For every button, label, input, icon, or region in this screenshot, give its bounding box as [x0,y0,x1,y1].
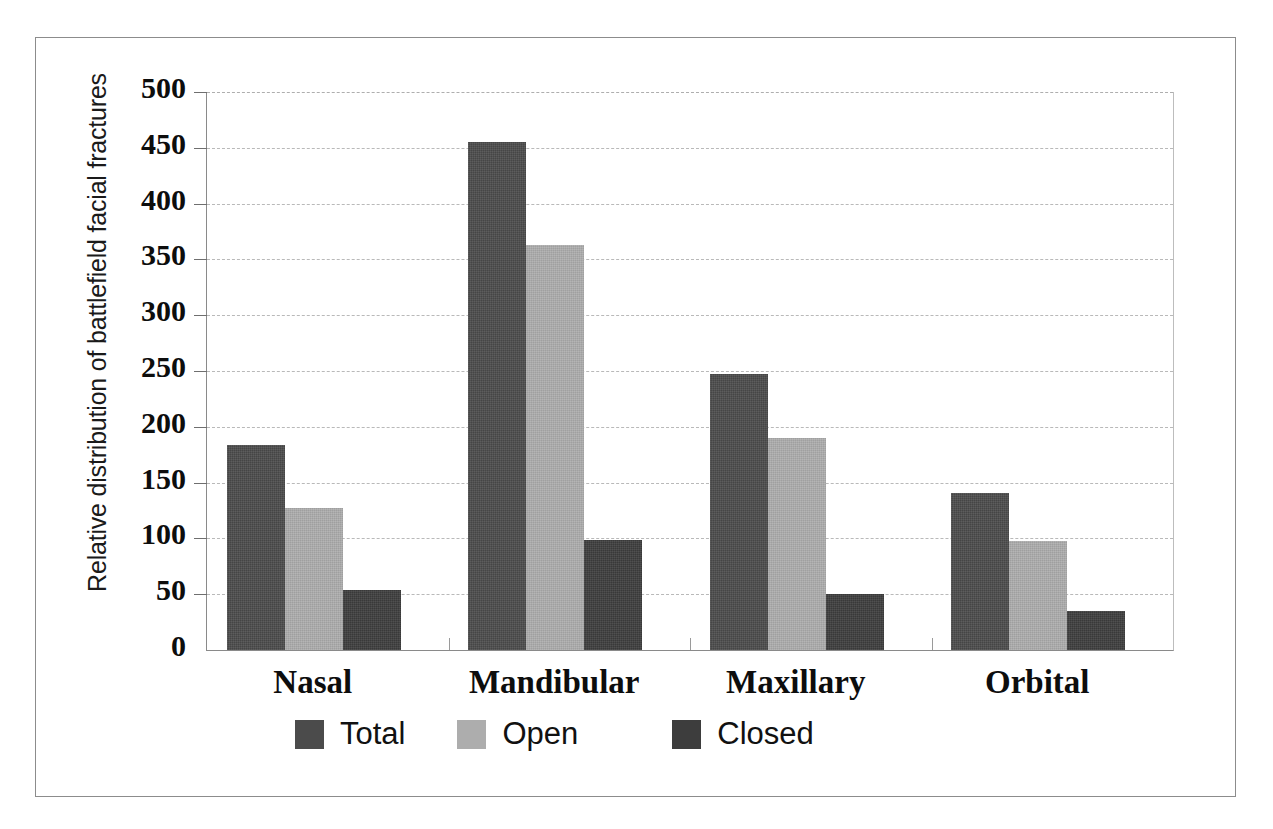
gridline-100 [207,538,1173,539]
y-tick-label-300: 300 [141,294,186,328]
legend-swatch-open [457,720,486,749]
bar-maxillary-open [768,438,826,650]
bar-mandibular-total [468,142,526,650]
tick-mark-250 [194,371,207,372]
y-tick-label-350: 350 [141,238,186,272]
tick-mark-400 [194,204,207,205]
y-tick-label-50: 50 [156,573,186,607]
legend-swatch-closed [672,720,701,749]
tick-mark-50 [194,594,207,595]
x-label-nasal: Nasal [273,664,352,701]
bar-nasal-open [285,508,343,650]
x-label-orbital: Orbital [985,664,1090,701]
gridline-500 [207,92,1173,93]
bar-orbital-closed [1067,611,1125,650]
bar-maxillary-total [710,374,768,650]
y-tick-label-400: 400 [141,183,186,217]
bar-maxillary-closed [826,594,884,650]
gridline-300 [207,315,1173,316]
y-tick-label-250: 250 [141,350,186,384]
tick-mark-300 [194,315,207,316]
chart-legend: TotalOpenClosed [295,716,814,752]
bar-nasal-closed [343,590,401,650]
legend-label-open: Open [502,716,578,752]
group-separator-2 [932,638,933,650]
tick-mark-200 [194,427,207,428]
legend-swatch-total [295,720,324,749]
tick-mark-350 [194,259,207,260]
legend-label-closed: Closed [717,716,814,752]
x-label-mandibular: Mandibular [469,664,640,701]
y-tick-label-100: 100 [141,517,186,551]
bar-orbital-total [951,493,1009,650]
legend-entry-total: Total [295,716,405,752]
y-axis-title: Relative distribution of battlefield fac… [83,33,112,633]
x-label-maxillary: Maxillary [726,664,865,701]
tick-mark-450 [194,148,207,149]
legend-entry-closed: Closed [672,716,814,752]
bar-nasal-total [227,445,285,650]
gridline-250 [207,371,1173,372]
legend-entry-open: Open [457,716,578,752]
gridline-400 [207,204,1173,205]
y-tick-label-500: 500 [141,71,186,105]
figure-root: Relative distribution of battlefield fac… [0,0,1273,829]
y-tick-label-150: 150 [141,462,186,496]
gridline-200 [207,427,1173,428]
group-separator-1 [690,638,691,650]
bar-mandibular-open [526,245,584,650]
y-tick-label-450: 450 [141,127,186,161]
tick-mark-100 [194,538,207,539]
tick-mark-500 [194,92,207,93]
tick-mark-150 [194,483,207,484]
plot-area [206,92,1174,651]
group-separator-0 [449,638,450,650]
gridline-450 [207,148,1173,149]
y-tick-label-200: 200 [141,406,186,440]
bar-mandibular-closed [584,540,642,650]
gridline-350 [207,259,1173,260]
y-tick-label-0: 0 [171,629,186,663]
gridline-150 [207,483,1173,484]
legend-label-total: Total [340,716,405,752]
bar-orbital-open [1009,541,1067,650]
